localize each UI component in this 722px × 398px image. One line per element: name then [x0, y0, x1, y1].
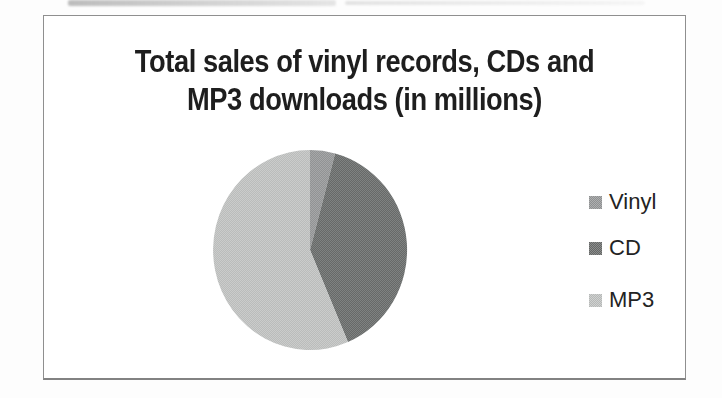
- pie-halftone-overlay: [213, 150, 407, 350]
- pie-chart: [0, 0, 722, 398]
